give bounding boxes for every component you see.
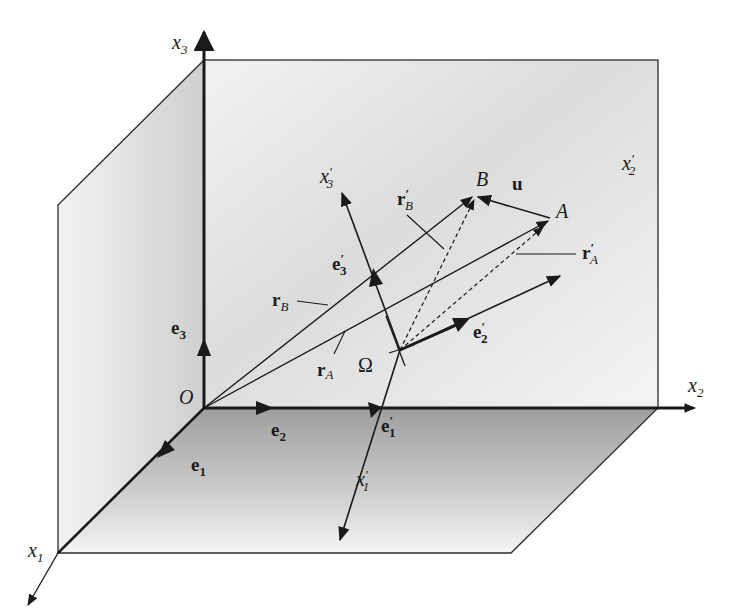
x1-label: x1 xyxy=(27,539,43,565)
x1-prime-label: x′1 xyxy=(355,467,369,494)
origin-label: O xyxy=(179,386,193,408)
x3-prime-label: x′3 xyxy=(319,164,334,191)
coordinate-diagram: x3 x2 x1 x′3 x′2 x′1 e3 e2 e1 e′3 e′2 e′… xyxy=(0,0,740,614)
omega-label: Ω xyxy=(358,354,373,376)
point-A-label: A xyxy=(554,200,569,222)
x2-prime-label: x′2 xyxy=(621,151,636,178)
point-B-label: B xyxy=(476,168,488,190)
x3-label: x3 xyxy=(171,31,188,57)
x2-label: x2 xyxy=(687,374,704,400)
u-label: u xyxy=(512,173,523,194)
back-wall-plane xyxy=(204,60,658,408)
